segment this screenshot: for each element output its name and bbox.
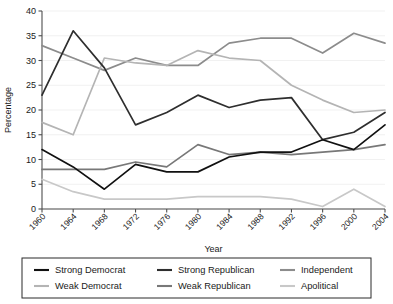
y-tick-label: 35 [26, 31, 36, 41]
series-group [42, 31, 385, 207]
y-tick-label: 15 [26, 130, 36, 140]
y-tick-label: 5 [31, 179, 36, 189]
chart-canvas: 0510152025303540Percentage19601964196819… [0, 0, 393, 304]
y-axis-title: Percentage [3, 87, 13, 133]
legend-label-strong-republican: Strong Republican [178, 265, 255, 275]
x-tick-label: 1996 [308, 211, 329, 232]
y-tick-label: 0 [31, 204, 36, 214]
x-tick-label: 1964 [58, 211, 79, 232]
x-tick-label: 1992 [276, 211, 297, 232]
series-line-apolitical [42, 179, 385, 206]
legend-label-apolitical: Apolitical [301, 281, 338, 291]
x-tick-label: 1988 [245, 211, 266, 232]
x-tick-label: 1960 [27, 211, 48, 232]
x-tick-label: 1976 [152, 211, 173, 232]
y-tick-label: 25 [26, 80, 36, 90]
series-line-independent [42, 33, 385, 70]
y-tick-label: 20 [26, 105, 36, 115]
y-tick-label: 10 [26, 155, 36, 165]
x-axis: 1960196419681972197619801984198819921996… [27, 209, 391, 232]
y-axis: 0510152025303540 [26, 6, 42, 214]
x-tick-label: 1980 [183, 211, 204, 232]
x-tick-label: 2004 [370, 211, 391, 232]
legend-label-weak-republican: Weak Republican [178, 281, 251, 291]
legend: Strong DemocratStrong RepublicanIndepend… [22, 258, 371, 298]
x-tick-label: 1984 [214, 211, 235, 232]
y-tick-label: 30 [26, 56, 36, 66]
x-axis-title: Year [204, 244, 222, 254]
x-tick-label: 1972 [121, 211, 142, 232]
legend-label-independent: Independent [301, 265, 353, 275]
legend-label-weak-democrat: Weak Democrat [55, 281, 122, 291]
x-tick-label: 1968 [89, 211, 110, 232]
grid-lines [42, 11, 385, 209]
x-tick-label: 2000 [339, 211, 360, 232]
series-line-weak-republican [42, 145, 385, 170]
legend-label-strong-democrat: Strong Democrat [55, 265, 126, 275]
y-tick-label: 40 [26, 6, 36, 16]
series-line-weak-democrat [42, 51, 385, 135]
line-chart: 0510152025303540Percentage19601964196819… [0, 0, 393, 304]
